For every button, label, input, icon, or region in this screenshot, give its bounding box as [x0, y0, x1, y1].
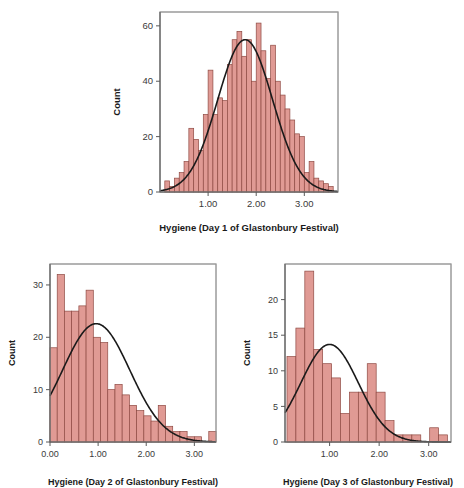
histogram-bar: [64, 311, 71, 442]
histogram-figure: 02040601.002.003.00Hygiene (Day 1 of Gla…: [0, 0, 464, 488]
histogram-bar: [300, 137, 305, 192]
chart-day1: 02040601.002.003.00Hygiene (Day 1 of Gla…: [98, 2, 364, 234]
histogram-bar: [115, 384, 122, 442]
x-axis-ticks: 0.001.002.003.00: [41, 442, 203, 459]
histogram-bar: [189, 128, 194, 192]
histogram-bar: [79, 306, 86, 442]
y-tick-label: 30: [33, 280, 43, 290]
histogram-bar: [275, 81, 280, 192]
x-tick-label: 1.00: [89, 449, 107, 459]
x-tick-label: 3.00: [420, 449, 438, 459]
histogram-bar: [266, 78, 271, 192]
y-axis-title: Count: [7, 340, 17, 366]
histogram-bar: [319, 181, 324, 192]
histogram-bar: [323, 364, 332, 442]
histogram-bar: [151, 421, 158, 442]
y-tick-label: 0: [273, 437, 278, 447]
y-tick-label: 0: [38, 437, 43, 447]
histogram-bar: [137, 411, 144, 442]
histogram-bar: [332, 378, 341, 442]
chart-panel-day3: 051015201.002.003.00Hygiene (Day 3 of Gl…: [237, 252, 463, 488]
histogram-bar: [122, 395, 129, 442]
histogram-bar: [271, 45, 276, 192]
histogram-bar: [213, 114, 218, 192]
y-tick-label: 60: [142, 20, 153, 31]
histogram-bar: [280, 95, 285, 192]
histogram-bar: [251, 81, 256, 192]
histogram-bar: [227, 65, 232, 192]
x-axis-ticks: 1.002.003.00: [199, 192, 314, 209]
y-axis-title: Count: [242, 340, 252, 366]
histogram-bar: [242, 56, 247, 192]
histogram-bar: [203, 114, 208, 192]
y-tick-label: 0: [148, 186, 153, 197]
x-axis-title: Hygiene (Day 2 of Glastonbury Festival): [48, 477, 218, 487]
histogram-bar: [223, 101, 228, 192]
histogram-bar: [349, 392, 358, 442]
histogram-bar: [314, 349, 323, 442]
x-tick-label: 1.00: [321, 449, 339, 459]
histogram-bar: [144, 416, 151, 442]
histogram-bar: [237, 31, 242, 192]
histogram-bar: [287, 357, 296, 442]
x-tick-label: 2.00: [247, 198, 266, 209]
bars-group: [165, 23, 333, 192]
histogram-bar: [209, 432, 216, 442]
histogram-bar: [108, 390, 115, 442]
y-axis-ticks: 0102030: [33, 280, 50, 447]
y-tick-label: 40: [142, 75, 153, 86]
x-tick-label: 3.00: [295, 198, 314, 209]
y-axis-title: Count: [111, 87, 122, 115]
y-tick-label: 10: [33, 385, 43, 395]
histogram-bar: [305, 271, 314, 442]
histogram-bar: [129, 405, 136, 442]
histogram-bar: [57, 274, 64, 442]
chart-day3: 051015201.002.003.00Hygiene (Day 3 of Gl…: [237, 252, 463, 488]
histogram-bar: [198, 150, 203, 192]
x-tick-label: 2.00: [370, 449, 388, 459]
x-axis-title: Hygiene (Day 3 of Glastonbury Festival): [283, 477, 453, 487]
histogram-bar: [430, 428, 439, 442]
x-tick-label: 0.00: [41, 449, 59, 459]
chart-day2: 01020300.001.002.003.00Hygiene (Day 2 of…: [2, 252, 230, 488]
y-tick-label: 20: [33, 332, 43, 342]
histogram-bar: [256, 23, 261, 192]
y-tick-label: 20: [268, 295, 278, 305]
x-axis-ticks: 1.002.003.00: [321, 442, 438, 459]
y-tick-label: 20: [142, 131, 153, 142]
histogram-bar: [72, 311, 79, 442]
y-tick-label: 5: [273, 402, 278, 412]
bars-group: [50, 274, 216, 442]
histogram-bar: [439, 435, 448, 442]
histogram-bar: [93, 337, 100, 442]
y-tick-label: 15: [268, 330, 278, 340]
x-tick-label: 2.00: [137, 449, 155, 459]
histogram-bar: [218, 98, 223, 192]
bars-group: [287, 271, 448, 442]
x-axis-title: Hygiene (Day 1 of Glastonbury Festival): [159, 222, 339, 233]
histogram-bar: [247, 40, 252, 192]
histogram-bar: [86, 290, 93, 442]
histogram-bar: [309, 162, 314, 192]
y-tick-label: 10: [268, 366, 278, 376]
x-tick-label: 1.00: [199, 198, 218, 209]
histogram-bar: [232, 40, 237, 192]
y-axis-ticks: 0204060: [142, 20, 160, 197]
chart-panel-day1: 02040601.002.003.00Hygiene (Day 1 of Gla…: [98, 2, 364, 234]
x-tick-label: 3.00: [186, 449, 204, 459]
histogram-bar: [341, 414, 350, 442]
y-axis-ticks: 05101520: [268, 295, 285, 447]
histogram-bar: [101, 343, 108, 442]
chart-panel-day2: 01020300.001.002.003.00Hygiene (Day 2 of…: [2, 252, 230, 488]
